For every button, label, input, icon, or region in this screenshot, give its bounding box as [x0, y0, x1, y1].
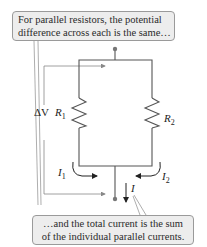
- bottom-callout: …and the total current is the sum of the…: [32, 215, 194, 245]
- top-callout-pointer: [34, 41, 41, 205]
- bottom-callout-pointer: [133, 195, 146, 215]
- top-callout: For parallel resistors, the potential di…: [12, 11, 175, 41]
- resistor-r2: [145, 98, 159, 128]
- bottom-callout-line1: …and the total current is the sum: [38, 218, 188, 231]
- i2-sub: 2: [166, 176, 170, 185]
- r1-label: R1: [55, 106, 66, 121]
- r1-main: R: [55, 106, 62, 118]
- r2-sub: 2: [171, 118, 175, 127]
- i1-sub: 1: [62, 172, 66, 181]
- i2-label: I2: [162, 170, 170, 185]
- r1-sub: 1: [62, 112, 66, 121]
- top-callout-line2: difference across each is the same…: [18, 27, 169, 40]
- current-arrows: [73, 162, 161, 202]
- resistor-r1: [72, 98, 86, 128]
- i-total-label: I: [131, 182, 135, 194]
- r2-label: R2: [164, 112, 175, 127]
- i-total-text: I: [131, 182, 135, 194]
- bottom-callout-line2: of the individual parallel currents.: [38, 231, 188, 244]
- delta-v-text: ΔV: [34, 106, 49, 118]
- bottom-terminal: [113, 197, 117, 201]
- r2-main: R: [164, 112, 171, 124]
- delta-v-bracket: [44, 66, 105, 194]
- i1-label: I1: [58, 166, 66, 181]
- delta-v-label: ΔV: [34, 106, 49, 118]
- top-terminal: [113, 47, 117, 51]
- top-callout-line1: For parallel resistors, the potential: [18, 14, 169, 27]
